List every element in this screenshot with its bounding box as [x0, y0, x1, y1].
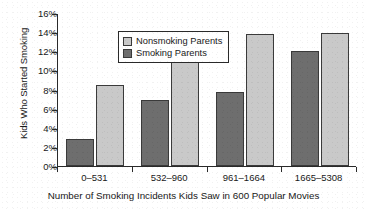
legend-label: Nonsmoking Parents — [136, 36, 222, 46]
chart-legend: Nonsmoking Parents Smoking Parents — [118, 31, 229, 63]
bar-nonsmoking-parents — [321, 33, 349, 166]
x-axis-tick-mark — [57, 167, 58, 172]
legend-item-smoking-parents: Smoking Parents — [123, 47, 222, 59]
legend-swatch-icon-smoking — [123, 49, 132, 58]
plot-area: Nonsmoking Parents Smoking Parents — [57, 14, 356, 167]
x-axis-category-label: 1665–5308 — [274, 172, 364, 183]
bar-chart: Kids Who Started Smoking 0%2%4%6%8%10%12… — [0, 0, 367, 209]
x-axis-tick-mark — [207, 167, 208, 172]
legend-swatch-icon-nonsmoking — [123, 37, 132, 46]
bar-smoking-parents — [141, 100, 169, 166]
bar-smoking-parents — [291, 51, 319, 166]
x-axis-tick-mark — [356, 167, 357, 172]
bar-nonsmoking-parents — [246, 34, 274, 166]
x-axis-title: Number of Smoking Incidents Kids Saw in … — [0, 190, 367, 201]
x-axis-tick-mark — [281, 167, 282, 172]
bar-smoking-parents — [66, 139, 94, 166]
x-axis-tick-mark — [132, 167, 133, 172]
legend-item-nonsmoking-parents: Nonsmoking Parents — [123, 35, 222, 47]
legend-label: Smoking Parents — [136, 48, 207, 58]
bar-nonsmoking-parents — [96, 85, 124, 166]
bar-smoking-parents — [216, 92, 244, 166]
